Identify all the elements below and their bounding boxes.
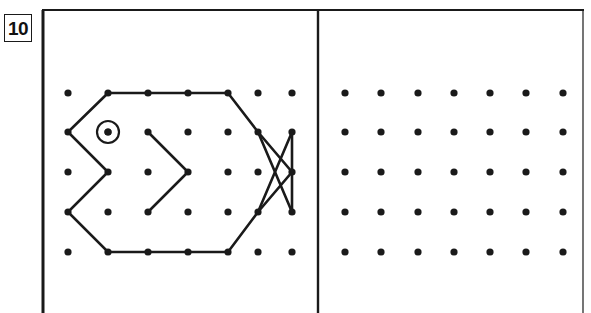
question-number-label: 10 (8, 19, 28, 38)
grid-dot (341, 248, 348, 255)
grid-dot (184, 208, 191, 215)
grid-dot (450, 248, 457, 255)
grid-dot (414, 168, 421, 175)
grid-dot (144, 168, 151, 175)
grid-dot (377, 128, 384, 135)
grid-dot (64, 248, 71, 255)
grid-dot (414, 208, 421, 215)
worksheet-canvas (0, 0, 591, 313)
grid-dot (64, 168, 71, 175)
grid-dot (224, 208, 231, 215)
grid-dot (522, 128, 529, 135)
grid-dot (377, 89, 384, 96)
grid-dot (341, 168, 348, 175)
grid-dot (522, 208, 529, 215)
grid-dot (559, 208, 566, 215)
grid-dot (450, 128, 457, 135)
grid-dot (522, 248, 529, 255)
grid-dot (224, 128, 231, 135)
grid-dot (377, 208, 384, 215)
grid-dot (486, 128, 493, 135)
grid-dot (254, 89, 261, 96)
worksheet-page: 10 (0, 0, 591, 313)
question-number-box: 10 (4, 14, 32, 42)
grid-dot (559, 89, 566, 96)
frame-rules (42, 10, 584, 313)
grid-dot (414, 89, 421, 96)
grid-dot (450, 168, 457, 175)
grid-dot (288, 248, 295, 255)
grid-dot (341, 208, 348, 215)
grid-dot (254, 168, 261, 175)
grid-dot (104, 208, 111, 215)
grid-dot (559, 128, 566, 135)
grid-dot (254, 248, 261, 255)
grid-dot (224, 168, 231, 175)
grid-dot (486, 208, 493, 215)
grid-dot (414, 128, 421, 135)
grid-dot (414, 248, 421, 255)
grid-dot (522, 89, 529, 96)
grid-dot (486, 248, 493, 255)
grid-dot (486, 168, 493, 175)
grid-dot (377, 248, 384, 255)
grid-dot (450, 89, 457, 96)
grid-dot (341, 128, 348, 135)
grid-dot (486, 89, 493, 96)
grid-dot (288, 89, 295, 96)
grid-dot (559, 248, 566, 255)
grid-dot (64, 89, 71, 96)
right-dot-grid (341, 89, 566, 255)
left-dot-grid (64, 89, 295, 255)
grid-dot (377, 168, 384, 175)
grid-dot (559, 168, 566, 175)
grid-dot (450, 208, 457, 215)
grid-dot (341, 89, 348, 96)
grid-dot (184, 128, 191, 135)
fish-inner-chevron (148, 132, 188, 212)
fish-eye-pupil-dot (104, 128, 111, 135)
grid-dot (522, 168, 529, 175)
